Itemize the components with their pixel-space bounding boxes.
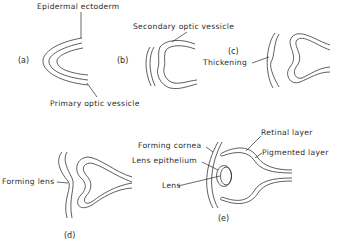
panel-b: (b) Secondary optic vessicle [117, 22, 234, 89]
leader-lens-epithelium [202, 162, 218, 170]
panel-label-e: (e) [218, 214, 229, 223]
panel-e: (e) Forming cornea Lens epithelium Lens … [132, 128, 329, 223]
ectoderm-curve-outer [43, 38, 88, 85]
leader-forming-cornea [206, 147, 213, 152]
label-forming-cornea: Forming cornea [138, 141, 201, 150]
panel-label-c: (c) [228, 47, 239, 56]
panel-c: (c) Thickening [202, 33, 330, 88]
leader-lens [178, 176, 220, 186]
ectoderm-curve-inner [150, 47, 155, 86]
vessicle-curve-inner [57, 48, 88, 75]
panel-label-b: (b) [117, 56, 128, 65]
layer-rim-bottom [221, 197, 223, 200]
label-lens-epithelium: Lens epithelium [132, 156, 197, 165]
panel-d: (d) Forming lens [2, 152, 132, 240]
panel-a: (a) Epidermal ectoderm Primary optic ves… [18, 2, 140, 108]
layer-rim-top [221, 153, 223, 156]
label-thickening: Thickening [202, 58, 247, 67]
label-epidermal-ectoderm: Epidermal ectoderm [37, 2, 120, 11]
eye-development-diagram: (a) Epidermal ectoderm Primary optic ves… [0, 0, 345, 249]
ectoderm-outer [267, 33, 275, 88]
label-retinal-layer: Retinal layer [261, 128, 313, 137]
leader-retinal-layer [246, 136, 261, 151]
panel-label-d: (d) [64, 231, 75, 240]
leader-primary-optic-vessicle [87, 83, 97, 97]
ectoderm-outer [59, 152, 70, 218]
panel-label-a: (a) [18, 56, 29, 65]
label-secondary-optic-vessicle: Secondary optic vessicle [133, 22, 234, 31]
label-forming-lens: Forming lens [2, 177, 54, 186]
label-primary-optic-vessicle: Primary optic vessicle [50, 99, 140, 108]
vessicle-inner-wall [164, 46, 197, 83]
leader-forming-lens [57, 182, 68, 183]
ectoderm-thickened [271, 34, 279, 87]
cup-outer-wall [288, 34, 330, 83]
label-pigmented-layer: Pigmented layer [262, 148, 329, 157]
label-lens: Lens [162, 181, 181, 190]
leader-thickening [252, 57, 269, 63]
lens-inner [221, 167, 232, 185]
cup-inner-wall [83, 163, 132, 203]
